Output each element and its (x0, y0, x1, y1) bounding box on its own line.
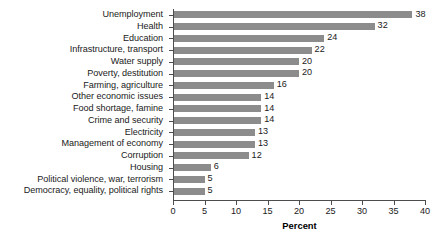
bar-value-label: 12 (252, 150, 262, 162)
x-axis-tick (394, 201, 395, 205)
bar[interactable] (173, 164, 211, 171)
bar-value-label: 24 (327, 32, 337, 44)
bar[interactable] (173, 82, 274, 89)
bar-row[interactable]: 5 (173, 174, 425, 186)
bar-row[interactable]: 20 (173, 56, 425, 68)
category-label: Crime and security (88, 115, 163, 127)
category-label: Housing (130, 162, 163, 174)
x-axis-tick-label: 35 (388, 206, 398, 216)
bar-row[interactable]: 12 (173, 150, 425, 162)
bar-row[interactable]: 13 (173, 127, 425, 139)
bar-value-label: 22 (315, 44, 325, 56)
category-label: Food shortage, famine (73, 103, 163, 115)
bar[interactable] (173, 129, 255, 136)
bar[interactable] (173, 23, 375, 30)
bar[interactable] (173, 94, 261, 101)
category-axis-labels: UnemploymentHealthEducationInfrastructur… (0, 9, 167, 198)
bar-value-label: 5 (208, 185, 213, 197)
bar[interactable] (173, 105, 261, 112)
x-axis-tick (205, 201, 206, 205)
x-axis-tick (299, 201, 300, 205)
bar-value-label: 20 (302, 67, 312, 79)
bar-value-label: 32 (378, 20, 388, 32)
bar-value-label: 5 (208, 173, 213, 185)
bar-value-label: 20 (302, 56, 312, 68)
x-axis-tick-label: 15 (262, 206, 272, 216)
bar-row[interactable]: 20 (173, 68, 425, 80)
x-axis-tick (331, 201, 332, 205)
x-axis-tick-label: 10 (231, 206, 241, 216)
bar[interactable] (173, 11, 412, 18)
bar-value-label: 38 (415, 9, 425, 21)
bar-row[interactable]: 5 (173, 185, 425, 197)
bar[interactable] (173, 188, 205, 195)
x-axis-tick (425, 201, 426, 205)
bar-value-label: 14 (264, 103, 274, 115)
bar-row[interactable]: 32 (173, 21, 425, 33)
bar-value-label: 13 (258, 126, 268, 138)
category-label: Other economic issues (72, 91, 163, 103)
x-axis-title: Percent (173, 220, 426, 231)
plot-area: 38322422202016141414131312655 (173, 9, 425, 200)
y-axis-line (173, 9, 174, 200)
bar-row[interactable]: 14 (173, 91, 425, 103)
x-axis-tick (236, 201, 237, 205)
x-axis-tick-label: 25 (325, 206, 335, 216)
category-label: Corruption (121, 150, 163, 162)
bar-row[interactable]: 22 (173, 44, 425, 56)
category-label: Farming, agriculture (83, 80, 163, 92)
category-label: Electricity (125, 127, 163, 139)
x-axis-tick (362, 201, 363, 205)
x-axis-tick (173, 201, 174, 205)
bar[interactable] (173, 70, 299, 77)
bar-value-label: 6 (214, 161, 219, 173)
bar-value-label: 13 (258, 138, 268, 150)
x-axis-tick-label: 5 (202, 206, 207, 216)
bar[interactable] (173, 117, 261, 124)
bar[interactable] (173, 47, 312, 54)
bar-row[interactable]: 14 (173, 115, 425, 127)
bar[interactable] (173, 176, 205, 183)
x-axis-tick-label: 30 (357, 206, 367, 216)
category-label: Democracy, equality, political rights (24, 185, 163, 197)
category-label: Political violence, war, terrorism (37, 174, 163, 186)
bar-row[interactable]: 24 (173, 33, 425, 45)
bar[interactable] (173, 141, 255, 148)
x-axis-tick-label: 20 (294, 206, 304, 216)
x-axis-tick (268, 201, 269, 205)
bar-row[interactable]: 16 (173, 80, 425, 92)
bar-row[interactable]: 38 (173, 9, 425, 21)
category-label: Health (137, 21, 163, 33)
bar-row[interactable]: 14 (173, 103, 425, 115)
bar-row[interactable]: 13 (173, 138, 425, 150)
category-label: Management of economy (61, 138, 163, 150)
category-label: Poverty, destitution (87, 68, 163, 80)
bar-row[interactable]: 6 (173, 162, 425, 174)
category-label: Water supply (111, 56, 163, 68)
bar-value-label: 14 (264, 114, 274, 126)
category-label: Unemployment (102, 9, 163, 21)
bar-value-label: 14 (264, 91, 274, 103)
category-label: Infrastructure, transport (70, 44, 163, 56)
bar[interactable] (173, 35, 324, 42)
x-axis-tick-label: 40 (420, 206, 430, 216)
bar-chart: UnemploymentHealthEducationInfrastructur… (0, 0, 440, 239)
bar[interactable] (173, 58, 299, 65)
bar-value-label: 16 (277, 79, 287, 91)
x-axis-tick-label: 0 (170, 206, 175, 216)
category-label: Education (123, 33, 163, 45)
bar[interactable] (173, 152, 249, 159)
